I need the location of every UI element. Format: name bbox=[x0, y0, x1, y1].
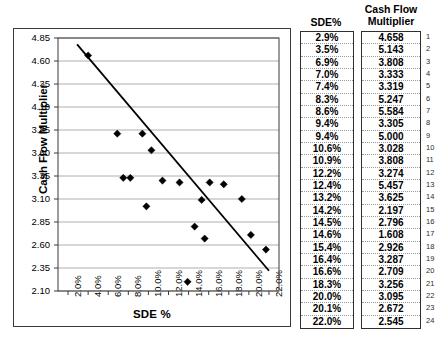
plot-border bbox=[58, 38, 279, 291]
row-number: 21 bbox=[424, 278, 442, 290]
data-point-diamond bbox=[184, 278, 191, 285]
multiplier-cell: 1.608 bbox=[362, 229, 420, 241]
chart-panel: Cash Flow Multiplier SDE % 4.854.604.354… bbox=[13, 28, 291, 327]
sde-cell: 14.5% bbox=[301, 217, 353, 229]
sde-cell: 8.3% bbox=[301, 94, 353, 106]
sde-cell: 18.3% bbox=[301, 279, 353, 291]
column-header-sde: SDE% bbox=[298, 16, 354, 28]
multiplier-cell: 3.808 bbox=[362, 57, 420, 69]
multiplier-cell: 3.305 bbox=[362, 118, 420, 130]
row-number: 9 bbox=[424, 130, 442, 142]
sde-cell: 10.6% bbox=[301, 143, 353, 155]
multiplier-cell: 2.926 bbox=[362, 242, 420, 254]
data-point-diamond bbox=[247, 231, 254, 238]
sde-cell: 9.4% bbox=[301, 118, 353, 130]
sde-cell: 6.9% bbox=[301, 57, 353, 69]
data-point-diamond bbox=[176, 179, 183, 186]
sde-cell: 20.1% bbox=[301, 303, 353, 315]
multiplier-value-column: 4.6585.1433.8083.3333.3195.2475.5843.305… bbox=[361, 31, 421, 329]
sde-cell: 12.4% bbox=[301, 180, 353, 192]
sde-cell: 3.5% bbox=[301, 44, 353, 56]
sde-cell: 16.6% bbox=[301, 266, 353, 278]
data-point-diamond bbox=[198, 196, 205, 203]
row-number: 7 bbox=[424, 105, 442, 117]
data-point-diamond bbox=[191, 223, 198, 230]
data-point-diamond bbox=[127, 174, 134, 181]
row-number: 24 bbox=[424, 315, 442, 327]
multiplier-cell: 2.197 bbox=[362, 205, 420, 217]
row-number: 8 bbox=[424, 117, 442, 129]
row-number: 4 bbox=[424, 68, 442, 80]
multiplier-cell: 3.319 bbox=[362, 81, 420, 93]
row-number: 10 bbox=[424, 142, 442, 154]
multiplier-cell: 3.028 bbox=[362, 143, 420, 155]
multiplier-cell: 5.247 bbox=[362, 94, 420, 106]
sde-cell: 13.2% bbox=[301, 192, 353, 204]
data-point-diamond bbox=[220, 181, 227, 188]
sde-cell: 2.9% bbox=[301, 32, 353, 44]
sde-cell: 14.2% bbox=[301, 205, 353, 217]
multiplier-cell: 5.143 bbox=[362, 44, 420, 56]
row-number: 19 bbox=[424, 253, 442, 265]
sde-cell: 7.4% bbox=[301, 81, 353, 93]
data-point-diamond bbox=[262, 246, 269, 253]
multiplier-cell: 2.709 bbox=[362, 266, 420, 278]
multiplier-cell: 3.625 bbox=[362, 192, 420, 204]
multiplier-cell: 3.095 bbox=[362, 291, 420, 303]
data-point-diamond bbox=[238, 195, 245, 202]
row-number: 18 bbox=[424, 241, 442, 253]
multiplier-cell: 3.333 bbox=[362, 69, 420, 81]
multiplier-cell: 3.287 bbox=[362, 254, 420, 266]
data-point-diamond bbox=[201, 235, 208, 242]
row-number: 11 bbox=[424, 154, 442, 166]
row-number: 12 bbox=[424, 167, 442, 179]
data-point-diamond bbox=[120, 174, 127, 181]
sde-cell: 7.0% bbox=[301, 69, 353, 81]
sde-cell: 8.6% bbox=[301, 106, 353, 118]
row-number: 15 bbox=[424, 204, 442, 216]
cfm-header-line1: Cash Flow bbox=[360, 3, 422, 15]
sde-cell: 10.9% bbox=[301, 155, 353, 167]
sde-cell: 12.2% bbox=[301, 168, 353, 180]
row-number: 3 bbox=[424, 56, 442, 68]
row-number: 20 bbox=[424, 265, 442, 277]
multiplier-cell: 5.000 bbox=[362, 131, 420, 143]
plot-frame bbox=[58, 38, 279, 291]
sde-cell: 22.0% bbox=[301, 316, 353, 328]
scatter-plot bbox=[14, 29, 292, 328]
axis-ticks bbox=[54, 38, 269, 295]
data-point-diamond bbox=[114, 130, 121, 137]
data-point-diamond bbox=[159, 177, 166, 184]
data-point-diamond bbox=[143, 203, 150, 210]
column-header-cash-flow-multiplier: Cash Flow Multiplier bbox=[360, 3, 422, 27]
multiplier-cell: 2.796 bbox=[362, 217, 420, 229]
sde-cell: 16.4% bbox=[301, 254, 353, 266]
multiplier-cell: 4.658 bbox=[362, 32, 420, 44]
gridlines bbox=[58, 38, 279, 291]
sde-cell: 15.4% bbox=[301, 242, 353, 254]
sde-cell: 9.4% bbox=[301, 131, 353, 143]
data-point-diamond bbox=[139, 130, 146, 137]
multiplier-cell: 2.545 bbox=[362, 316, 420, 328]
row-number: 22 bbox=[424, 290, 442, 302]
row-number: 23 bbox=[424, 302, 442, 314]
multiplier-cell: 5.584 bbox=[362, 106, 420, 118]
row-number: 13 bbox=[424, 179, 442, 191]
multiplier-cell: 3.274 bbox=[362, 168, 420, 180]
row-number: 14 bbox=[424, 191, 442, 203]
row-number: 2 bbox=[424, 43, 442, 55]
multiplier-cell: 3.256 bbox=[362, 279, 420, 291]
multiplier-cell: 5.457 bbox=[362, 180, 420, 192]
row-number-column: 123456789101112131415161718192021222324 bbox=[424, 31, 442, 327]
multiplier-cell: 2.672 bbox=[362, 303, 420, 315]
data-point-diamond bbox=[85, 52, 92, 59]
row-number: 5 bbox=[424, 80, 442, 92]
data-markers bbox=[85, 29, 270, 285]
data-table: SDE% Cash Flow Multiplier 2.9%3.5%6.9%7.… bbox=[298, 0, 444, 342]
row-number: 17 bbox=[424, 228, 442, 240]
row-number: 6 bbox=[424, 93, 442, 105]
cfm-header-line2: Multiplier bbox=[360, 15, 422, 27]
trendline bbox=[77, 44, 269, 270]
sde-cell: 14.6% bbox=[301, 229, 353, 241]
multiplier-cell: 3.808 bbox=[362, 155, 420, 167]
